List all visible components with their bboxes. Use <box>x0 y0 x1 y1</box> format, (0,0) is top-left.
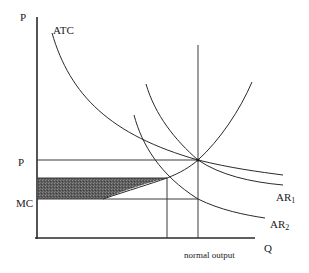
mc-level-label: MC <box>16 198 33 209</box>
economics-diagram: P ATC P MC AR1 AR2 Q normal output <box>0 0 309 273</box>
diagram-svg <box>0 0 309 273</box>
ar1-label-sub: 1 <box>291 196 295 205</box>
ar1-label-base: AR <box>276 191 291 203</box>
ar2-curve <box>134 115 265 218</box>
y-axis-label: P <box>20 12 26 23</box>
ar1-curve <box>146 84 283 185</box>
ar2-label-sub: 2 <box>285 223 289 232</box>
atc-curve <box>52 33 283 175</box>
shaded-region <box>38 178 167 199</box>
x-axis-label: Q <box>264 243 272 254</box>
ar2-label-base: AR <box>270 218 285 230</box>
equilibrium-point <box>196 158 199 161</box>
p-level-label: P <box>18 157 24 168</box>
ar1-label: AR1 <box>276 192 295 203</box>
normal-output-label: normal output <box>184 251 235 260</box>
atc-label: ATC <box>53 25 74 36</box>
ar2-label: AR2 <box>270 219 289 230</box>
